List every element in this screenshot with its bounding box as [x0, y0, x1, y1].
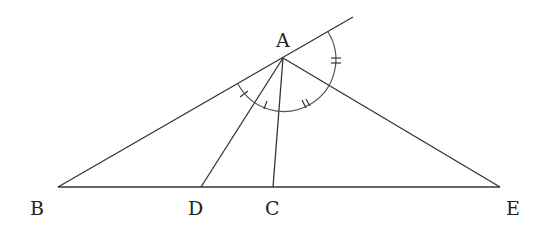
label-D: D — [188, 197, 203, 219]
label-E: E — [506, 197, 520, 219]
segment-AC — [273, 58, 283, 187]
label-A: A — [275, 29, 290, 51]
label-B: B — [30, 197, 44, 219]
segment-AD — [201, 58, 283, 187]
segment-AE — [283, 58, 500, 187]
geometry-diagram: A B D C E — [0, 0, 549, 241]
segment-BA-extended — [58, 17, 353, 187]
label-C: C — [265, 197, 280, 219]
